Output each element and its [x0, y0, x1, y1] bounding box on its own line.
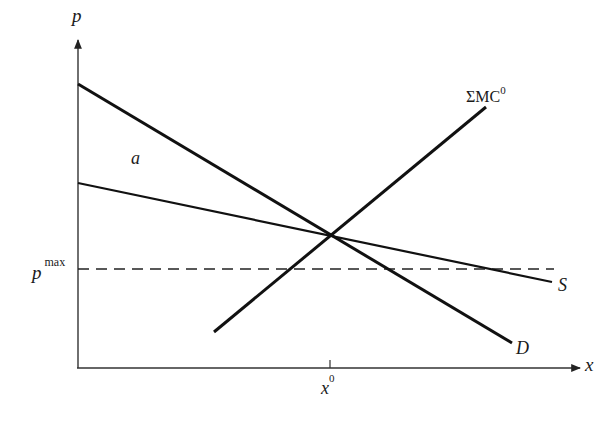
- supply-curve: [78, 183, 552, 282]
- price-ceiling-label-base: p: [32, 262, 42, 283]
- equilibrium-quantity-label: x0: [321, 378, 335, 397]
- marginal-cost-label-sup: 0: [500, 84, 506, 96]
- marginal-cost-label: ΣMC0: [466, 87, 506, 105]
- equilibrium-quantity-label-sup: 0: [329, 372, 335, 384]
- demand-curve: [78, 84, 512, 343]
- equilibrium-quantity-label-base: x: [321, 378, 329, 398]
- y-axis-label: p: [72, 6, 82, 25]
- region-a-label: a: [131, 149, 140, 167]
- marginal-cost-label-base: ΣMC: [466, 88, 500, 105]
- price-ceiling-label: pmax: [32, 262, 65, 282]
- price-ceiling-label-sup: max: [45, 255, 66, 269]
- supply-label: S: [558, 276, 567, 294]
- diagram-canvas: [0, 0, 603, 425]
- demand-label: D: [516, 339, 529, 357]
- x-axis-label: x: [585, 355, 593, 374]
